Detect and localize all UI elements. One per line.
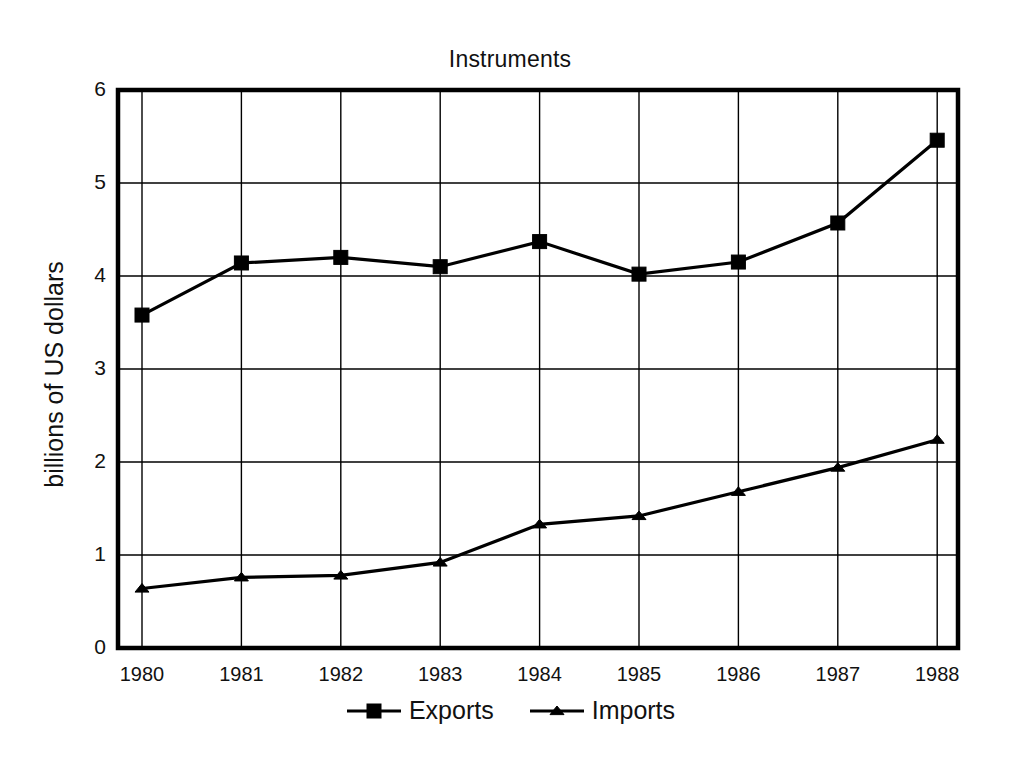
legend-entry-imports[interactable]: Imports xyxy=(528,698,675,723)
legend-label: Exports xyxy=(409,698,494,723)
chart-legend: ExportsImports xyxy=(0,698,1020,723)
line-chart: Instruments billions of US dollars 01234… xyxy=(0,0,1020,776)
gridlines xyxy=(118,90,958,648)
square-marker-icon xyxy=(345,700,403,722)
triangle-marker-icon xyxy=(528,700,586,722)
legend-label: Imports xyxy=(592,698,675,723)
legend-entry-exports[interactable]: Exports xyxy=(345,698,494,723)
plot-area xyxy=(0,0,1020,776)
